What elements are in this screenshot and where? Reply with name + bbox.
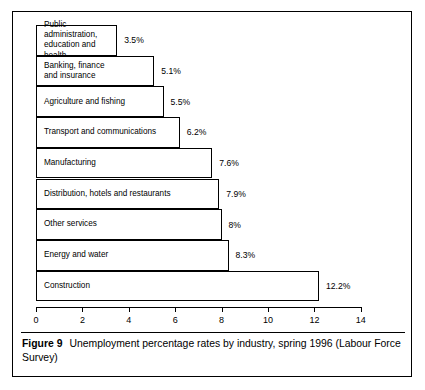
bar-row: Manufacturing7.6%: [13, 148, 413, 179]
x-axis-tick: [129, 307, 130, 312]
x-axis-tick-label: 8: [212, 315, 232, 325]
bar-row: Other services8%: [13, 209, 413, 240]
bar-category-label: Other services: [37, 219, 101, 229]
x-axis-tick-label: 6: [165, 315, 185, 325]
bar-category-label: Agriculture and fishing: [37, 97, 129, 107]
bar-row: Agriculture and fishing5.5%: [13, 86, 413, 117]
x-axis-tick: [36, 307, 37, 312]
bar-category-label: Public administration, education and hea…: [37, 20, 116, 61]
bar[interactable]: Other services: [36, 209, 222, 240]
bar-value-label: 8.3%: [236, 250, 256, 260]
bar-category-label: Distribution, hotels and restaurants: [37, 189, 175, 199]
x-axis-tick: [268, 307, 269, 312]
bar-row: Construction12.2%: [13, 271, 413, 302]
x-axis-tick: [82, 307, 83, 312]
bar[interactable]: Agriculture and fishing: [36, 86, 164, 117]
bar-row: Public administration, education and hea…: [13, 25, 413, 56]
bar-row: Energy and water8.3%: [13, 240, 413, 271]
bar-row: Banking, finance and insurance5.1%: [13, 56, 413, 87]
x-axis-tick-label: 0: [26, 315, 46, 325]
bar-value-label: 12.2%: [326, 281, 350, 291]
x-axis-tick-label: 4: [119, 315, 139, 325]
bar[interactable]: Transport and communications: [36, 117, 180, 148]
bar-value-label: 3.5%: [124, 35, 144, 45]
bar[interactable]: Public administration, education and hea…: [36, 25, 117, 56]
bar-category-label: Construction: [37, 281, 94, 291]
bar-value-label: 5.5%: [171, 97, 191, 107]
bar-category-label: Energy and water: [37, 250, 112, 260]
figure-caption-text: Unemployment percentage rates by industr…: [22, 338, 401, 363]
x-axis-tick: [222, 307, 223, 312]
x-axis-tick-label: 10: [258, 315, 278, 325]
x-axis-tick-label: 2: [72, 315, 92, 325]
bar[interactable]: Energy and water: [36, 240, 229, 271]
bar-value-label: 7.9%: [226, 189, 246, 199]
bar-value-label: 8%: [229, 220, 241, 230]
bar-value-label: 7.6%: [219, 158, 239, 168]
x-axis-tick-label: 14: [351, 315, 371, 325]
bar[interactable]: Manufacturing: [36, 148, 212, 179]
bar[interactable]: Banking, finance and insurance: [36, 56, 154, 87]
x-axis-tick-label: 12: [304, 315, 324, 325]
bar-chart-plot-area: Public administration, education and hea…: [13, 12, 413, 308]
x-axis-tick: [175, 307, 176, 312]
figure-caption: Figure 9Unemployment percentage rates by…: [22, 337, 406, 366]
x-axis-line: [36, 307, 361, 308]
caption-divider: [21, 332, 405, 333]
bar-value-label: 5.1%: [161, 66, 181, 76]
bar-value-label: 6.2%: [187, 127, 207, 137]
bar-category-label: Manufacturing: [37, 158, 100, 168]
bar-category-label: Banking, finance and insurance: [37, 61, 109, 82]
x-axis-tick: [314, 307, 315, 312]
figure-frame: Public administration, education and hea…: [12, 11, 412, 377]
x-axis-tick: [361, 307, 362, 312]
bar-category-label: Transport and communications: [37, 127, 160, 137]
figure-caption-label: Figure 9: [22, 338, 62, 349]
bar[interactable]: Distribution, hotels and restaurants: [36, 179, 219, 210]
bar[interactable]: Construction: [36, 271, 319, 302]
bar-row: Distribution, hotels and restaurants7.9%: [13, 179, 413, 210]
bar-row: Transport and communications6.2%: [13, 117, 413, 148]
